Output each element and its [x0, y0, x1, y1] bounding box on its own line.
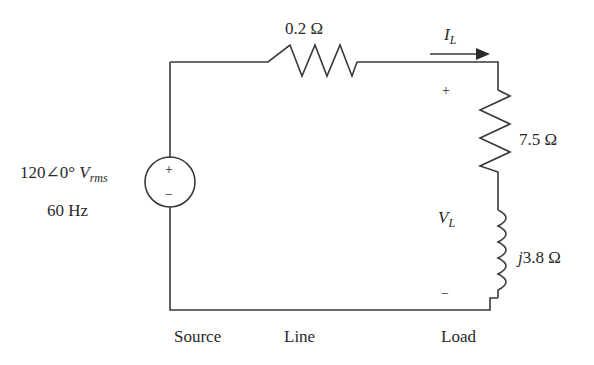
source-voltage-subscript: rms: [90, 171, 108, 185]
current-label: IL: [444, 26, 456, 46]
source-voltage-label: 120∠0° Vrms: [20, 164, 108, 184]
load-inductor: [498, 210, 506, 298]
line-resistor: [265, 45, 357, 76]
current-arrow: [430, 48, 490, 60]
section-label-load: Load: [441, 328, 476, 345]
line-resistance-label: 0.2 Ω: [285, 20, 323, 37]
source-plus-sign: +: [165, 163, 173, 177]
load-reactance-label: j3.8 Ω: [518, 249, 561, 266]
load-plus-sign: +: [442, 84, 450, 98]
source-voltage-symbol: V: [79, 163, 89, 182]
load-resistor: [480, 90, 510, 210]
wire-top-right: [357, 62, 498, 90]
load-minus-sign: −: [441, 287, 449, 301]
load-resistance-label: 7.5 Ω: [519, 131, 557, 148]
reactance-value: 3.8 Ω: [523, 248, 561, 267]
load-voltage-symbol: V: [438, 208, 448, 227]
load-voltage-label: VL: [438, 209, 455, 229]
section-label-line: Line: [284, 328, 315, 345]
section-label-source: Source: [174, 328, 221, 345]
source-minus-sign: −: [165, 188, 173, 202]
source-frequency-label: 60 Hz: [47, 202, 88, 219]
load-voltage-subscript: L: [448, 216, 455, 230]
current-subscript: L: [450, 33, 457, 47]
source-voltage-phasor: 120∠0°: [20, 163, 75, 182]
